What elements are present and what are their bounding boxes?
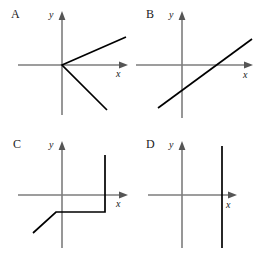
panel-a-y-axis-arrowhead [59, 11, 66, 20]
panel-c-y-axis-label: y [48, 139, 54, 150]
panel-b-letter: B [146, 7, 154, 21]
panel-a-letter: A [11, 7, 20, 21]
panel-d-y-axis-arrowhead [179, 141, 186, 150]
panel-a: A y x [11, 7, 128, 115]
panel-d: D y x [146, 137, 237, 248]
panel-b-y-axis-label: y [168, 9, 174, 20]
panel-b: B y x [136, 7, 253, 118]
panel-a-y-axis-label: y [48, 9, 54, 20]
panel-b-x-axis-arrowhead [244, 62, 253, 69]
four-panel-graph-figure: A y x B y x C y x [0, 0, 263, 261]
panel-c-letter: C [13, 137, 21, 151]
panel-d-y-axis-label: y [168, 139, 174, 150]
panel-c-y-axis-arrowhead [59, 141, 66, 150]
panel-d-x-axis-label: x [225, 199, 231, 210]
panel-b-curve [158, 39, 252, 108]
panel-a-x-axis-label: x [115, 68, 121, 79]
panel-c-x-axis-label: x [115, 198, 121, 209]
panel-c: C y x [13, 137, 128, 248]
panel-c-curve [33, 155, 105, 233]
panel-b-x-axis-label: x [242, 69, 248, 80]
panel-d-letter: D [146, 137, 155, 151]
panel-d-x-axis-arrowhead [228, 192, 237, 199]
panel-b-y-axis-arrowhead [179, 11, 186, 20]
